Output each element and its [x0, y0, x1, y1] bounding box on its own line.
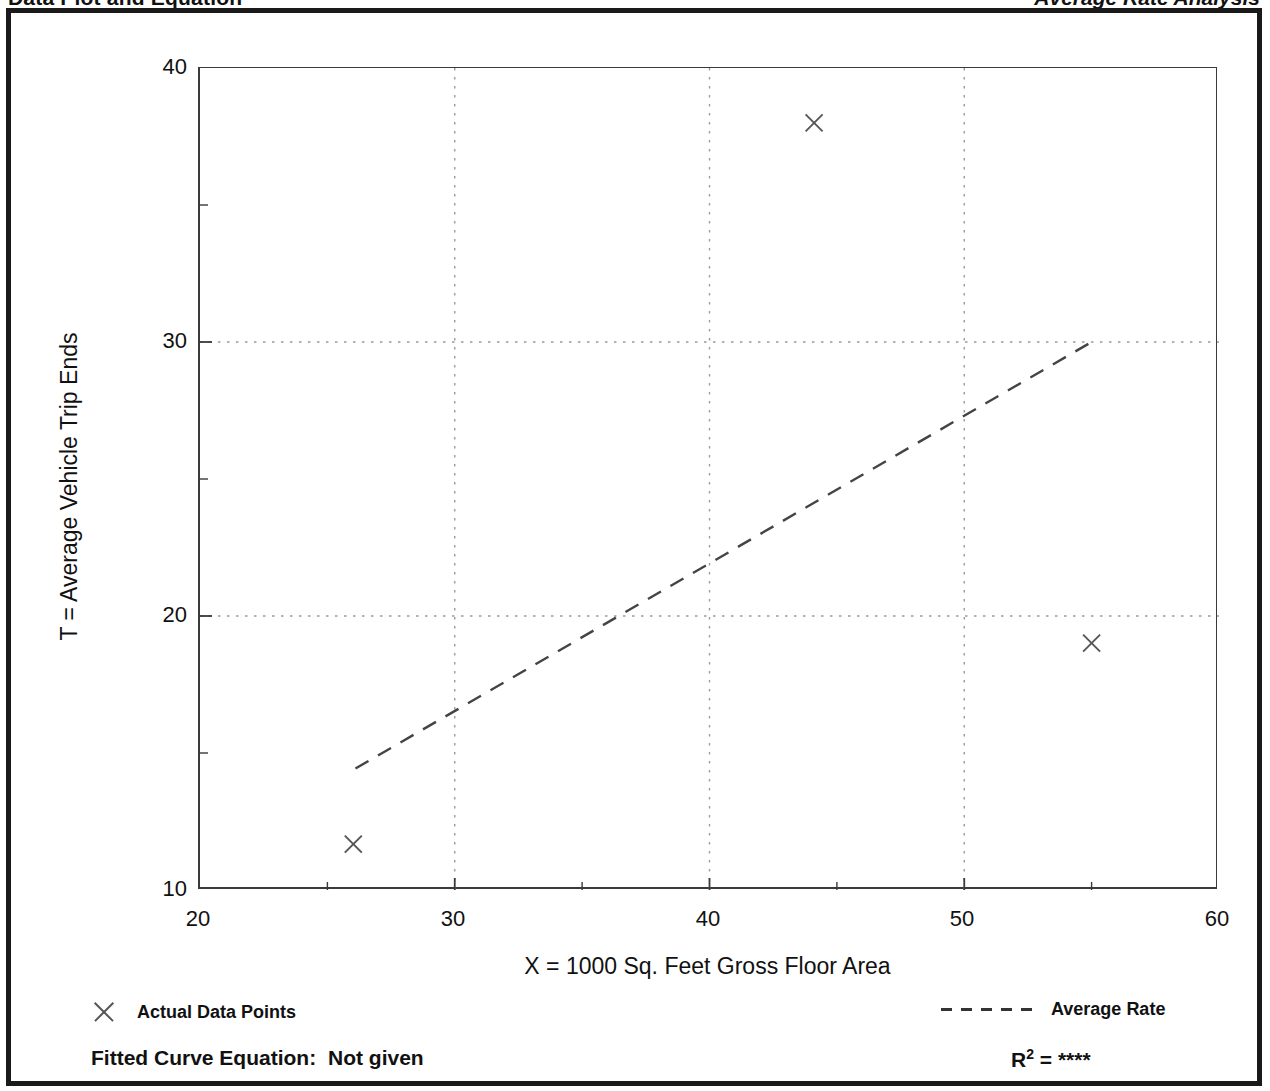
legend-item-average-rate: Average Rate — [941, 999, 1165, 1020]
equation-row: Fitted Curve Equation: Not given R2 = **… — [11, 1046, 1257, 1082]
plot-area — [198, 67, 1217, 889]
fitted-curve-equation: Fitted Curve Equation: Not given — [91, 1046, 424, 1070]
chart-frame: 40 30 20 10 20 30 40 50 60 T = Average V… — [6, 8, 1262, 1086]
y-tick-10: 10 — [127, 878, 187, 900]
legend-label-actual-data-points: Actual Data Points — [137, 1002, 296, 1023]
x-tick-40: 40 — [668, 906, 748, 932]
data-point-marker — [806, 114, 823, 131]
data-point-marker — [1083, 635, 1100, 652]
fitted-equation-value: Not given — [328, 1046, 424, 1069]
data-point-marker — [345, 836, 362, 853]
page-title: Data Plot and Equation — [8, 0, 242, 8]
r-squared-label: R — [1011, 1048, 1026, 1071]
r-squared-stars: **** — [1058, 1048, 1091, 1071]
average-rate-trend-line — [356, 342, 1092, 769]
chart-stage: 40 30 20 10 20 30 40 50 60 T = Average V… — [11, 13, 1257, 1081]
legend-item-actual-data-points: Actual Data Points — [91, 999, 296, 1025]
x-tick-60: 60 — [1177, 906, 1257, 932]
y-tick-20: 20 — [127, 604, 187, 626]
data-point-markers — [345, 114, 1100, 852]
x-tick-50: 50 — [922, 906, 1002, 932]
x-axis-tick-labels: 20 30 40 50 60 — [11, 906, 1257, 940]
y-tick-40: 40 — [127, 56, 187, 78]
fitted-equation-label: Fitted Curve Equation: — [91, 1046, 316, 1069]
page-heading-strip: Data Plot and Equation Average Rate Anal… — [0, 0, 1270, 8]
plot-canvas — [200, 68, 1219, 890]
page-subtitle: Average Rate Analysis — [1034, 0, 1260, 8]
r-squared-equals: = — [1040, 1048, 1052, 1071]
x-axis-title: X = 1000 Sq. Feet Gross Floor Area — [198, 953, 1217, 980]
x-tick-20: 20 — [158, 906, 238, 932]
grid-vertical — [455, 68, 965, 890]
legend-label-average-rate: Average Rate — [1051, 999, 1165, 1020]
y-axis-title: T = Average Vehicle Trip Ends — [56, 167, 83, 807]
axis-minor-ticks — [200, 205, 1092, 890]
x-marker-icon — [91, 999, 117, 1025]
dashed-line-icon — [941, 1008, 1033, 1011]
chart-legend: Actual Data Points Average Rate — [11, 999, 1257, 1033]
y-tick-30: 30 — [127, 330, 187, 352]
r-squared-value: R2 = **** — [1011, 1046, 1091, 1072]
x-tick-30: 30 — [413, 906, 493, 932]
r-squared-exponent: 2 — [1026, 1046, 1034, 1062]
